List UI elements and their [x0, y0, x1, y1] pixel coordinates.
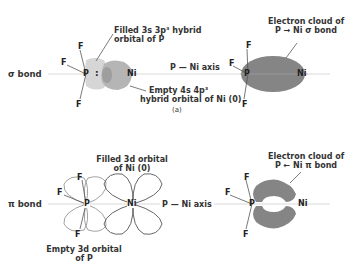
atom-f: F [229, 60, 234, 68]
label-filled-3d-ni: Filled 3d orbital of Ni (0) [92, 155, 172, 173]
atom-p: P [83, 70, 89, 78]
orbital-overlap [102, 67, 112, 83]
label-empty-4s4p3: Empty 4s 4p³ hybrid orbital of Ni (0) [140, 86, 241, 104]
lone-pair: : [95, 69, 99, 77]
atom-f: F [244, 174, 249, 182]
leader-line-filled-3s3p3 [96, 34, 113, 61]
pi-cloud-lower-lobe [253, 206, 296, 228]
label-line: Empty 4s 4p³ [140, 86, 241, 95]
atom-ni: Ni [127, 70, 136, 78]
label-line: Electron cloud of [268, 17, 344, 26]
p-f-bond [64, 195, 86, 204]
leader-line-pi-cloud [290, 172, 301, 183]
atom-f: F [61, 59, 66, 67]
atom-p: P [249, 200, 255, 208]
label-line: P ← Ni π bond [268, 161, 344, 170]
atom-ni: Ni [298, 200, 307, 208]
atom-f: F [78, 43, 83, 51]
row-label-pi-bond: π bond [8, 200, 42, 209]
atom-f: F [243, 231, 248, 239]
atom-f: F [246, 42, 251, 50]
atom-ni: Ni [127, 200, 136, 208]
atom-f: F [76, 101, 81, 109]
atom-p: P [84, 200, 90, 208]
atom-f: F [75, 231, 80, 239]
atom-ni: Ni [297, 70, 306, 78]
label-filled-3s3p3: Filled 3s 3p³ hybrid orbital of P [114, 26, 201, 44]
label-empty-3d-p: Empty 3d orbital of P [44, 245, 124, 263]
atom-f: F [242, 101, 247, 109]
atom-f: F [57, 189, 62, 197]
row-label-sigma-bond: σ bond [8, 70, 42, 79]
axis-label-b: P — Ni axis [160, 200, 214, 209]
atom-f: F [225, 189, 230, 197]
label-line: orbital of P [114, 35, 201, 44]
pi-cloud-upper-lobe [253, 180, 296, 202]
label-line: of P [44, 254, 124, 263]
label-line: Empty 3d orbital [44, 245, 124, 254]
atom-p: P [244, 70, 250, 78]
label-pi-cloud: Electron cloud of P ← Ni π bond [268, 152, 344, 170]
label-line: of Ni (0) [92, 164, 172, 173]
atom-f: F [77, 174, 82, 182]
panel-caption-a: (a) [172, 106, 182, 115]
label-line: hybrid orbital of Ni (0) [140, 95, 241, 104]
label-line: Electron cloud of [268, 152, 344, 161]
label-line: Filled 3d orbital [92, 155, 172, 164]
leader-line-sigma-cloud [286, 43, 297, 58]
label-line: Filled 3s 3p³ hybrid [114, 26, 201, 35]
axis-label-a: P — Ni axis [168, 63, 222, 72]
label-sigma-cloud: Electron cloud of P → Ni σ bond [268, 17, 344, 35]
label-line: P → Ni σ bond [268, 26, 344, 35]
